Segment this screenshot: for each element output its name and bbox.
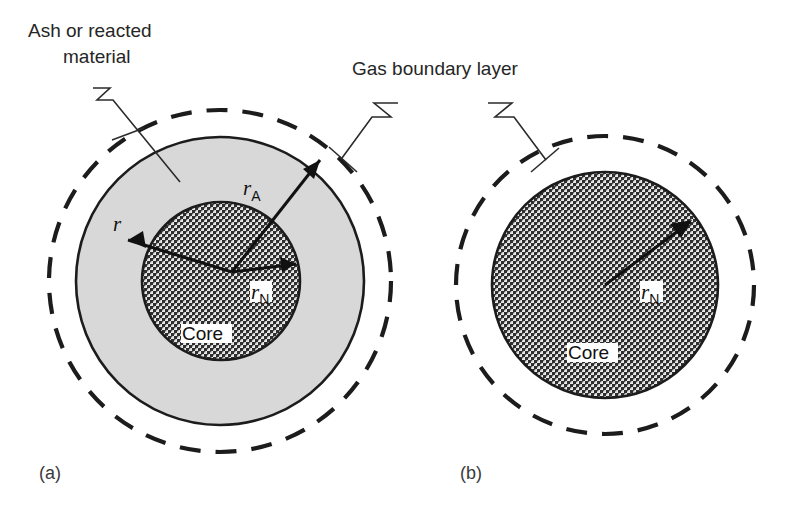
diagram-canvas: r rA rN Core (a): [0, 0, 788, 512]
panel-a-label-r: r: [113, 212, 122, 236]
panel-a-label-rn: rN: [250, 280, 272, 307]
ash-callout-label-line2: material: [63, 46, 131, 67]
ash-callout-crossing-tick: [112, 128, 144, 140]
ash-callout-label-line1: Ash or reacted: [28, 20, 152, 41]
gas-callout-leader-line-left: [342, 103, 398, 158]
panel-b: rN Core (b): [456, 136, 754, 483]
gas-callout-label: Gas boundary layer: [352, 58, 518, 79]
panel-a-caption: (a): [39, 463, 61, 483]
gas-callout-crossing-tick-left: [329, 147, 357, 172]
svg-text:Core: Core: [182, 323, 223, 344]
panel-b-core-label: Core: [567, 342, 618, 363]
panel-b-caption: (b): [460, 463, 482, 483]
panel-a: r rA rN Core (a): [39, 110, 391, 483]
svg-text:Core: Core: [568, 342, 609, 363]
shrinking-core-figure: r rA rN Core (a): [0, 0, 788, 512]
panel-a-core-label: Core: [181, 323, 232, 344]
